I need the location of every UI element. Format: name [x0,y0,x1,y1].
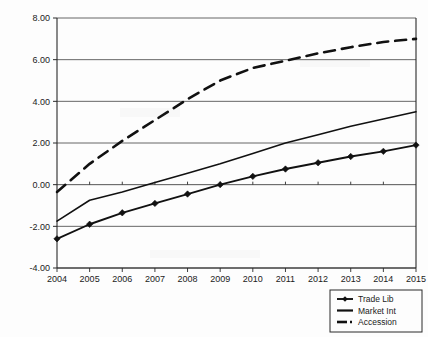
y-tick-label: 2.00 [32,138,50,148]
x-tick-label: 2006 [112,274,132,284]
y-tick-label: 8.00 [32,13,50,23]
x-tick-label: 2005 [80,274,100,284]
chart-background [0,0,428,337]
x-tick-label: 2011 [276,274,295,284]
x-tick-label: 2008 [178,274,198,284]
y-tick-label: 4.00 [32,97,50,107]
x-tick-label: 2004 [47,274,67,284]
x-tick-label: 2014 [373,274,393,284]
y-tick-label: 0.00 [32,180,50,190]
legend-label: Trade Lib [358,294,394,304]
y-tick-label: 6.00 [32,55,50,65]
legend-label: Accession [358,317,397,327]
legend[interactable]: Trade LibMarket IntAccession [330,290,422,332]
x-tick-label: 2009 [210,274,230,284]
y-tick-label: -2.00 [29,222,50,232]
chart-container: 8.006.004.002.000.00-2.00-4.00 200420052… [0,0,428,337]
x-tick-label: 2015 [406,274,426,284]
line-chart: 8.006.004.002.000.00-2.00-4.00 200420052… [0,0,428,337]
y-tick-label: -4.00 [29,263,50,273]
x-tick-label: 2013 [341,274,361,284]
x-tick-label: 2012 [308,274,328,284]
x-tick-label: 2010 [243,274,263,284]
x-tick-label: 2007 [145,274,165,284]
legend-label: Market Int [358,306,396,316]
